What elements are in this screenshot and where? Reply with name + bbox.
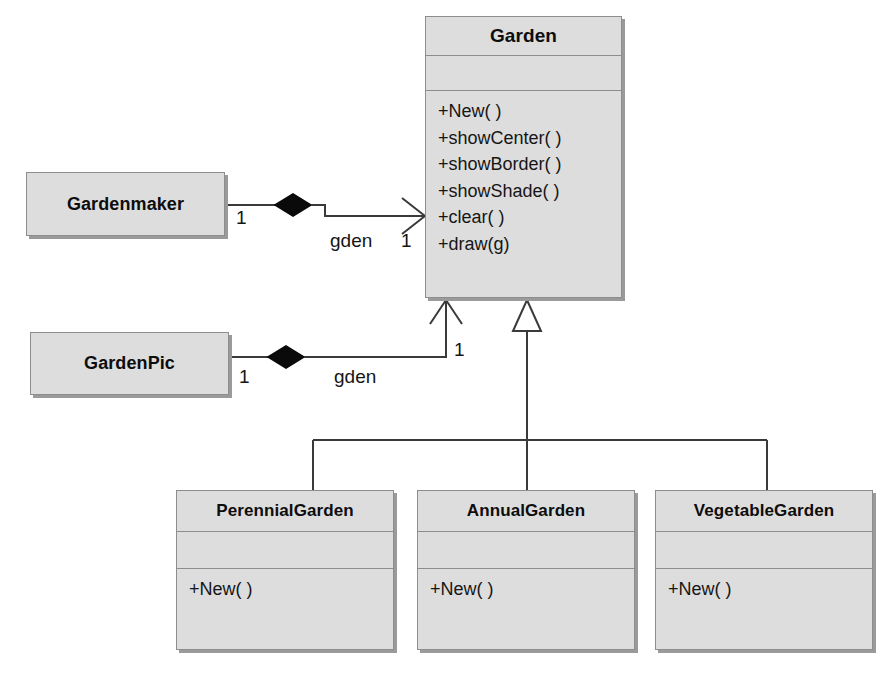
class-operations-vegetablegarden: +New( )	[656, 569, 872, 608]
operation-item: +New( )	[430, 576, 634, 602]
role-label-gardenpic-gden: gden	[334, 366, 376, 388]
open-arrowhead-gardenpic	[430, 300, 462, 324]
filled-diamond-aggregation-gardenpic	[268, 346, 304, 368]
operation-item: +New( )	[668, 576, 872, 602]
operation-item: +New( )	[438, 98, 621, 125]
class-operations-annualgarden: +New( )	[418, 569, 634, 608]
multiplicity-label-gardenmaker-source: 1	[236, 207, 247, 229]
class-attributes-garden	[426, 56, 621, 90]
class-operations-garden: +New( ) +showCenter( ) +showBorder( ) +s…	[426, 91, 621, 263]
operation-item: +New( )	[189, 576, 393, 602]
class-name-annualgarden: AnnualGarden	[418, 491, 634, 531]
multiplicity-label-gardenpic-target: 1	[454, 339, 465, 361]
operation-item: +draw(g)	[438, 231, 621, 258]
class-box-perennialgarden[interactable]: PerennialGarden +New( )	[176, 490, 394, 650]
edge-gardenmaker-to-garden	[225, 194, 425, 234]
operation-item: +showShade( )	[438, 178, 621, 205]
class-box-vegetablegarden[interactable]: VegetableGarden +New( )	[655, 490, 873, 650]
open-arrowhead-gardenmaker	[402, 198, 425, 234]
class-box-annualgarden[interactable]: AnnualGarden +New( )	[417, 490, 635, 650]
class-name-gardenpic: GardenPic	[31, 333, 228, 394]
class-operations-perennialgarden: +New( )	[177, 569, 393, 608]
hollow-triangle-inheritance	[513, 300, 541, 331]
multiplicity-label-gardenmaker-target: 1	[401, 230, 412, 252]
class-name-perennialgarden: PerennialGarden	[177, 491, 393, 531]
edge-generalization-garden	[313, 300, 767, 490]
uml-class-diagram-canvas: .ln { stroke: #3a3a3a; stroke-width: 2; …	[0, 0, 890, 678]
class-attributes-annualgarden	[418, 532, 634, 568]
class-name-vegetablegarden: VegetableGarden	[656, 491, 872, 531]
class-attributes-vegetablegarden	[656, 532, 872, 568]
class-name-gardenmaker: Gardenmaker	[27, 173, 224, 235]
class-attributes-perennialgarden	[177, 532, 393, 568]
class-name-garden: Garden	[426, 17, 621, 55]
operation-item: +clear( )	[438, 204, 621, 231]
edge-gardenpic-to-garden	[229, 300, 462, 368]
class-box-gardenmaker[interactable]: Gardenmaker	[26, 172, 225, 236]
operation-item: +showBorder( )	[438, 151, 621, 178]
class-box-garden[interactable]: Garden +New( ) +showCenter( ) +showBorde…	[425, 16, 622, 298]
class-box-gardenpic[interactable]: GardenPic	[30, 332, 229, 395]
multiplicity-label-gardenpic-source: 1	[239, 366, 250, 388]
role-label-gardenmaker-gden: gden	[330, 230, 372, 252]
operation-item: +showCenter( )	[438, 125, 621, 152]
filled-diamond-aggregation-gardenmaker	[275, 194, 311, 216]
